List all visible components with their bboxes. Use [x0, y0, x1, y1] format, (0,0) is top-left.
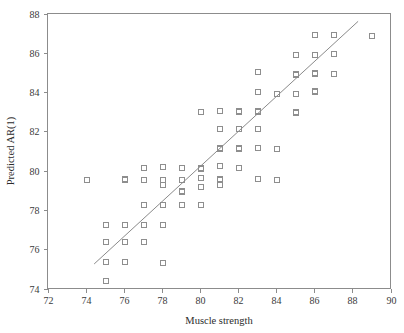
data-point	[161, 178, 166, 183]
data-point	[142, 240, 147, 245]
data-point	[104, 260, 109, 265]
data-point	[218, 127, 223, 132]
x-tick-label-82: 82	[234, 295, 244, 306]
data-point	[294, 92, 299, 97]
data-point	[180, 166, 185, 171]
data-point	[161, 203, 166, 208]
data-point	[104, 279, 109, 284]
data-point	[256, 146, 261, 151]
x-tick-label-90: 90	[387, 295, 397, 306]
x-tick-label-74: 74	[82, 295, 92, 306]
data-point-markers	[85, 33, 375, 284]
data-point	[161, 261, 166, 266]
data-point	[199, 203, 204, 208]
data-point	[142, 166, 147, 171]
x-axis-title: Muscle strength	[185, 315, 253, 326]
data-point	[180, 203, 185, 208]
y-tick-label-88: 88	[30, 9, 40, 20]
data-point	[332, 52, 337, 57]
data-point	[142, 203, 147, 208]
x-tick-label-76: 76	[120, 295, 130, 306]
data-point	[370, 34, 375, 39]
x-tick-label-88: 88	[348, 295, 358, 306]
data-point	[313, 33, 318, 38]
x-tick-label-78: 78	[158, 295, 168, 306]
regression-line	[94, 21, 358, 264]
y-tick-label-84: 84	[30, 87, 40, 98]
data-point	[161, 165, 166, 170]
data-point	[218, 183, 223, 188]
data-point	[142, 178, 147, 183]
y-tick-label-74: 74	[30, 284, 40, 295]
data-point	[199, 176, 204, 181]
data-point	[275, 178, 280, 183]
x-tick-label-86: 86	[310, 295, 320, 306]
data-point	[275, 147, 280, 152]
y-tick-label-86: 86	[30, 48, 40, 59]
data-point	[123, 223, 128, 228]
data-point	[161, 183, 166, 188]
data-point	[161, 223, 166, 228]
y-axis-title: Predicted AR(1)	[5, 116, 17, 185]
data-point	[294, 53, 299, 58]
x-tick-label-80: 80	[196, 295, 206, 306]
data-point	[104, 240, 109, 245]
x-tick-label-84: 84	[272, 295, 282, 306]
y-tick-label-76: 76	[30, 244, 40, 255]
regression-line-path	[94, 21, 358, 264]
data-point	[199, 185, 204, 190]
plot-canvas: 72747678808284868890 7476788082848688 Mu…	[0, 0, 404, 333]
data-point	[256, 127, 261, 132]
data-point	[256, 177, 261, 182]
y-tick-label-78: 78	[30, 205, 40, 216]
data-point	[123, 260, 128, 265]
data-point	[104, 223, 109, 228]
x-axis-tick-labels: 72747678808284868890	[44, 295, 397, 306]
y-axis-tick-labels: 7476788082848688	[30, 9, 40, 295]
data-point	[313, 53, 318, 58]
data-point	[123, 240, 128, 245]
data-point	[332, 33, 337, 38]
x-axis-ticks	[49, 289, 392, 293]
data-point	[256, 90, 261, 95]
data-point	[332, 72, 337, 77]
y-tick-label-82: 82	[30, 126, 40, 137]
x-tick-label-72: 72	[44, 295, 54, 306]
data-point	[218, 164, 223, 169]
scatter-plot-figure: 72747678808284868890 7476788082848688 Mu…	[0, 0, 404, 333]
data-point	[85, 178, 90, 183]
data-point	[218, 109, 223, 114]
data-point	[256, 70, 261, 75]
y-axis-ticks	[44, 15, 48, 290]
y-tick-label-80: 80	[30, 166, 40, 177]
data-point	[142, 223, 147, 228]
data-point	[199, 110, 204, 115]
data-point	[237, 166, 242, 171]
